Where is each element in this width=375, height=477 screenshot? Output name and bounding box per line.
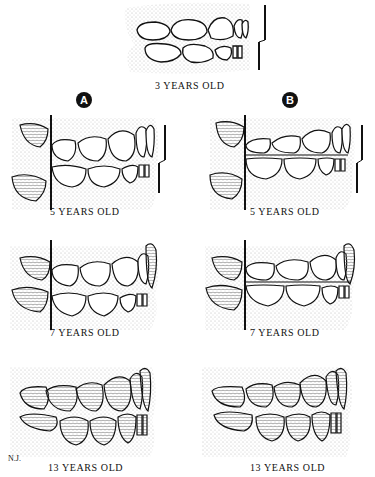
panel-3-years: 3 YEARS OLD — [115, 0, 275, 95]
panel-a-13-years: N.J. 13 YEARS OLD — [0, 365, 185, 477]
teeth-illustration-b-5-years — [190, 115, 375, 210]
teeth-illustration-b-7-years — [190, 240, 375, 330]
age-label: 13 YEARS OLD — [250, 462, 325, 473]
teeth-illustration-b-13-years — [190, 365, 375, 460]
panel-b-13-years: 13 YEARS OLD — [190, 365, 375, 477]
age-label: 5 YEARS OLD — [50, 206, 120, 217]
age-label: 7 YEARS OLD — [50, 327, 120, 338]
teeth-illustration-a-5-years — [0, 115, 185, 210]
age-label: 5 YEARS OLD — [250, 206, 320, 217]
column-badge-b: B — [282, 92, 298, 108]
age-label: 7 YEARS OLD — [250, 327, 320, 338]
panel-a-7-years: 7 YEARS OLD — [0, 240, 185, 345]
panel-a-5-years: 5 YEARS OLD — [0, 115, 185, 220]
teeth-illustration-a-13-years — [0, 365, 185, 460]
panel-b-7-years: 7 YEARS OLD — [190, 240, 375, 345]
artist-initials: N.J. — [8, 454, 21, 463]
panel-b-5-years: 5 YEARS OLD — [190, 115, 375, 220]
occlusion-bars-3-years — [115, 0, 275, 80]
age-label: 13 YEARS OLD — [48, 462, 123, 473]
column-badge-a: A — [76, 92, 92, 108]
teeth-illustration-a-7-years — [0, 240, 185, 330]
age-label: 3 YEARS OLD — [155, 80, 225, 91]
